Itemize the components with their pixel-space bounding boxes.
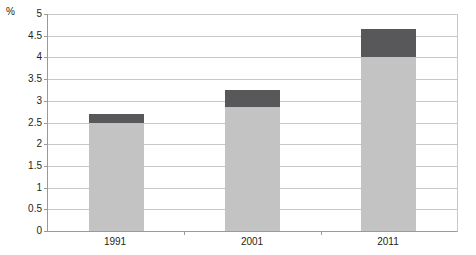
bar-group[interactable] [89,14,144,231]
x-axis-tick-mark [321,231,322,235]
y-axis-tick-label: 0 [0,226,42,236]
y-axis-tick-mark [44,166,48,167]
bar-chart: % 54.543.532.521.510.50 199120012011 [0,0,476,255]
y-axis-tick-label: 3 [0,96,42,106]
bar-segment[interactable] [361,57,416,231]
gridline [48,231,457,232]
y-axis-tick-mark [44,188,48,189]
bar-segment[interactable] [89,123,144,232]
x-axis-tick-mark [184,231,185,235]
x-axis-tick-label: 2011 [377,236,399,247]
x-axis-tick-label: 1991 [104,236,126,247]
y-axis-tick-labels: 54.543.532.521.510.50 [0,0,42,255]
y-axis-tick-label: 5 [0,9,42,19]
y-axis-tick-label: 1.5 [0,161,42,171]
bar-segment[interactable] [225,107,280,231]
y-axis-tick-mark [44,209,48,210]
y-axis-tick-mark [44,123,48,124]
plot-area [47,14,458,232]
bar-segment[interactable] [89,114,144,123]
bar-segment[interactable] [361,29,416,57]
y-axis-tick-label: 4.5 [0,31,42,41]
y-axis-tick-mark [44,36,48,37]
bar-group[interactable] [225,14,280,231]
y-axis-tick-label: 4 [0,52,42,62]
y-axis-tick-label: 3.5 [0,74,42,84]
bar-group[interactable] [361,14,416,231]
y-axis-tick-label: 0.5 [0,204,42,214]
y-axis-tick-label: 2.5 [0,118,42,128]
x-axis-tick-label: 2001 [241,236,263,247]
bar-segment[interactable] [225,90,280,107]
y-axis-tick-mark [44,57,48,58]
y-axis-tick-mark [44,14,48,15]
y-axis-tick-mark [44,79,48,80]
x-axis-tick-labels: 199120012011 [47,236,456,252]
y-axis-tick-label: 2 [0,139,42,149]
y-axis-tick-label: 1 [0,183,42,193]
y-axis-tick-mark [44,144,48,145]
y-axis-tick-mark [44,101,48,102]
y-axis-tick-mark [44,231,48,232]
